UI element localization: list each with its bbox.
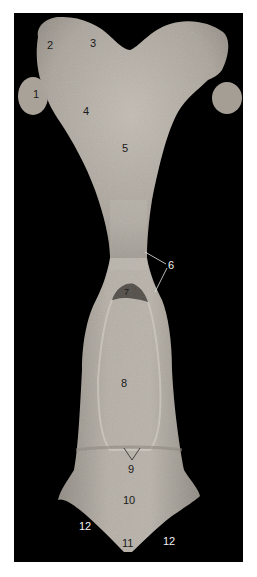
label-11: 11 — [122, 538, 133, 549]
leader-line-6a — [145, 252, 166, 264]
label-1: 1 — [33, 89, 39, 100]
label-9: 9 — [128, 464, 134, 475]
label-8: 8 — [121, 378, 127, 389]
label-5: 5 — [122, 143, 128, 154]
label-6: 6 — [168, 260, 174, 271]
label-10: 10 — [123, 495, 135, 506]
label-4: 4 — [83, 106, 89, 117]
leader-line-6b — [155, 268, 167, 292]
label-2: 2 — [47, 40, 53, 51]
label-12-right: 12 — [163, 536, 175, 547]
label-7: 7 — [124, 287, 129, 298]
label-3: 3 — [90, 38, 96, 49]
right-knob — [212, 82, 242, 114]
label-12-left: 12 — [79, 521, 91, 532]
